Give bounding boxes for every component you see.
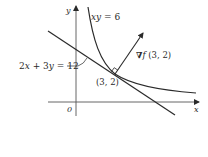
y-axis-label: y	[65, 6, 71, 15]
diagram-canvas: y x 0 xy = 6 2x + 3y = 12 (3, 2) ∇f (3, …	[0, 0, 208, 157]
gradient-level-curve-diagram: y x 0 xy = 6 2x + 3y = 12 (3, 2) ∇f (3, …	[0, 0, 208, 157]
gradient-label: ∇f (3, 2)	[136, 50, 171, 60]
curve-label: xy = 6	[91, 12, 120, 22]
origin-label: 0	[67, 105, 72, 114]
x-axis-label: x	[194, 105, 199, 114]
point-label: (3, 2)	[96, 77, 119, 87]
tangent-line-label: 2x + 3y = 12	[19, 61, 79, 71]
